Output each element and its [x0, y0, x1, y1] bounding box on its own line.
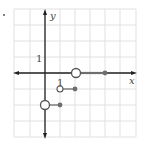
closed-endpoint: [103, 71, 108, 76]
y-axis-arrow-down-icon: [43, 133, 47, 139]
open-endpoint: [41, 101, 50, 110]
y-tick-label: 1: [36, 53, 42, 64]
x-axis-label: x: [129, 75, 135, 86]
closed-endpoint: [58, 103, 63, 108]
y-axis-arrow-up-icon: [43, 9, 47, 15]
open-endpoint: [72, 69, 81, 78]
y-axis-label: y: [49, 10, 56, 21]
open-endpoint: [57, 86, 63, 92]
step-function-graph: y x 1 1: [0, 0, 141, 145]
closed-endpoint: [73, 87, 78, 92]
bullet-dot: [3, 14, 5, 16]
